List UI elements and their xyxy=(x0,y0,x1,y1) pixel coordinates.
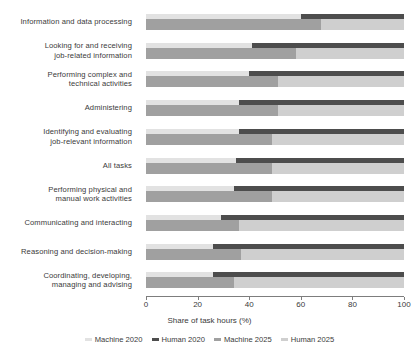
bar-group-2025 xyxy=(146,19,404,30)
x-axis-title: Share of task hours (%) xyxy=(0,316,419,325)
category-label-line: All tasks xyxy=(0,161,132,171)
x-axis-tick-label: 20 xyxy=(193,300,202,309)
legend-label: Human 2020 xyxy=(162,336,205,344)
bar-rows xyxy=(146,8,404,296)
legend-swatch-icon xyxy=(152,338,159,341)
legend-label: Human 2025 xyxy=(291,336,334,344)
x-axis-line xyxy=(146,296,404,297)
x-axis-tick-label: 100 xyxy=(397,300,410,309)
legend-item[interactable]: Human 2025 xyxy=(281,336,334,344)
segment-human-2025 xyxy=(272,134,404,145)
category-label-line: job-related information xyxy=(0,51,132,61)
segment-machine-2025 xyxy=(146,163,272,174)
segment-human-2025 xyxy=(278,105,404,116)
x-axis-tick-label: 0 xyxy=(144,300,148,309)
segment-machine-2025 xyxy=(146,191,272,202)
bar-row xyxy=(146,100,404,119)
legend-swatch-icon xyxy=(85,338,92,341)
category-label-line: Coordinating, developing, xyxy=(0,271,132,281)
category-label-line: managing and advising xyxy=(0,280,132,290)
bar-row xyxy=(146,215,404,234)
category-label-line: manual work activities xyxy=(0,194,132,204)
segment-machine-2025 xyxy=(146,19,321,30)
bar-row xyxy=(146,14,404,33)
x-axis-tick-label: 40 xyxy=(245,300,254,309)
category-label-line: job-relevant information xyxy=(0,137,132,147)
legend-item[interactable]: Machine 2020 xyxy=(85,336,143,344)
category-label-line: Performing physical and xyxy=(0,185,132,195)
category-label: Performing physical andmanual work activ… xyxy=(0,185,132,204)
bar-group-2025 xyxy=(146,191,404,202)
category-axis-labels: Information and data processingLooking f… xyxy=(0,8,138,296)
segment-human-2025 xyxy=(296,48,404,59)
bar-group-2025 xyxy=(146,48,404,59)
segment-human-2025 xyxy=(278,76,404,87)
legend-label: Machine 2025 xyxy=(224,336,272,344)
segment-human-2025 xyxy=(241,249,404,260)
category-label: Identifying and evaluatingjob-relevant i… xyxy=(0,127,132,146)
segment-human-2025 xyxy=(234,277,404,288)
category-label-line: Communicating and interacting xyxy=(0,218,132,228)
legend-item[interactable]: Human 2020 xyxy=(152,336,205,344)
bar-group-2025 xyxy=(146,249,404,260)
category-label: Looking for and receivingjob-related inf… xyxy=(0,41,132,60)
category-label: Reasoning and decision-making xyxy=(0,247,132,257)
bar-group-2025 xyxy=(146,163,404,174)
bar-group-2025 xyxy=(146,76,404,87)
category-label: All tasks xyxy=(0,161,132,171)
category-label-line: technical activities xyxy=(0,79,132,89)
bar-row xyxy=(146,71,404,90)
bar-group-2025 xyxy=(146,220,404,231)
legend-item[interactable]: Machine 2025 xyxy=(214,336,272,344)
segment-machine-2025 xyxy=(146,277,234,288)
plot-area xyxy=(146,8,404,296)
category-label: Information and data processing xyxy=(0,17,132,27)
category-label: Communicating and interacting xyxy=(0,218,132,228)
x-axis-tick-label: 80 xyxy=(348,300,357,309)
category-label: Coordinating, developing,managing and ad… xyxy=(0,271,132,290)
category-label-line: Reasoning and decision-making xyxy=(0,247,132,257)
category-label-line: Looking for and receiving xyxy=(0,41,132,51)
segment-human-2025 xyxy=(321,19,404,30)
segment-human-2025 xyxy=(272,191,404,202)
segment-human-2025 xyxy=(239,220,404,231)
bar-group-2025 xyxy=(146,105,404,116)
category-label-line: Administering xyxy=(0,103,132,113)
segment-machine-2025 xyxy=(146,249,241,260)
legend-swatch-icon xyxy=(281,338,288,341)
segment-machine-2025 xyxy=(146,76,278,87)
x-axis-tick-label: 60 xyxy=(296,300,305,309)
segment-machine-2025 xyxy=(146,48,296,59)
segment-machine-2025 xyxy=(146,105,278,116)
bar-row xyxy=(146,186,404,205)
bar-row xyxy=(146,129,404,148)
bar-group-2025 xyxy=(146,277,404,288)
category-label-line: Performing complex and xyxy=(0,70,132,80)
legend-label: Machine 2020 xyxy=(95,336,143,344)
segment-human-2025 xyxy=(272,163,404,174)
category-label-line: Information and data processing xyxy=(0,17,132,27)
bar-row xyxy=(146,272,404,291)
category-label: Performing complex andtechnical activiti… xyxy=(0,70,132,89)
category-label: Administering xyxy=(0,103,132,113)
bar-group-2025 xyxy=(146,134,404,145)
bar-row xyxy=(146,43,404,62)
segment-machine-2025 xyxy=(146,220,239,231)
bar-row xyxy=(146,158,404,177)
segment-machine-2025 xyxy=(146,134,272,145)
bar-row xyxy=(146,244,404,263)
legend-swatch-icon xyxy=(214,338,221,341)
chart-legend: Machine 2020Human 2020Machine 2025Human … xyxy=(0,336,419,344)
bar-chart: Information and data processingLooking f… xyxy=(0,0,419,356)
category-label-line: Identifying and evaluating xyxy=(0,127,132,137)
